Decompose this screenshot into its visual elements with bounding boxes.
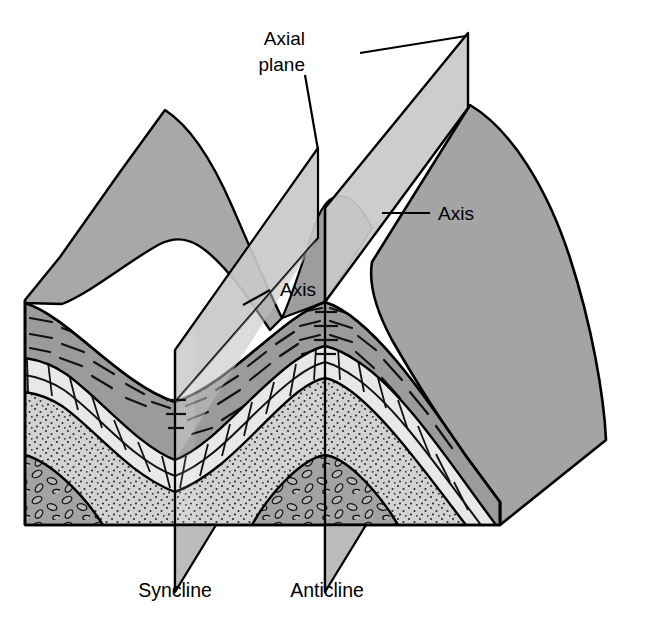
axial-plane-label-line2: plane xyxy=(259,54,306,75)
fold-block-diagram: Axial plane Axis Axis Syncline Anticline xyxy=(0,0,661,626)
anticline-label: Anticline xyxy=(290,579,364,601)
axis-right-label: Axis xyxy=(438,203,474,224)
syncline-label: Syncline xyxy=(138,579,212,601)
axial-plane-leader-down xyxy=(305,75,318,150)
axis-left-label: Axis xyxy=(280,279,316,300)
axial-plane-leader-right xyxy=(360,36,466,53)
axial-plane-label-line1: Axial xyxy=(264,28,305,49)
diagram-canvas: Axial plane Axis Axis Syncline Anticline xyxy=(0,0,661,626)
